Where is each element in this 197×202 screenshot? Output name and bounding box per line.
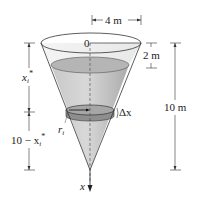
arrow-right-icon	[137, 19, 141, 22]
arrow-left-icon	[92, 19, 96, 22]
left-arrow-mid-down-icon	[28, 108, 31, 112]
empty-depth-label: 2 m	[143, 49, 160, 61]
slice-thickness-label: Δx	[119, 106, 132, 118]
left-arrow-down-icon	[28, 166, 31, 170]
height-label: 10 m	[164, 101, 187, 113]
axis-arrow-icon	[88, 185, 93, 192]
remaining-depth-label: 10 − xi*	[11, 132, 45, 148]
axis-label: x	[79, 180, 85, 192]
origin-label: 0	[84, 37, 90, 49]
height-arrow-down-icon	[174, 166, 177, 170]
height-arrow-up-icon	[174, 43, 177, 47]
conical-tank-diagram: x 0 4 m 2 m 10 m Δx ri xi* 10 − xi*	[0, 0, 197, 202]
top-radius-label: 4 m	[105, 14, 122, 26]
left-arrow-up-icon	[28, 43, 31, 47]
left-arrow-mid-up-icon	[28, 112, 31, 116]
slice-radius-label: ri	[58, 123, 64, 137]
slice-thickness-brace	[117, 108, 118, 118]
depth-to-slice-label: xi*	[21, 69, 33, 85]
